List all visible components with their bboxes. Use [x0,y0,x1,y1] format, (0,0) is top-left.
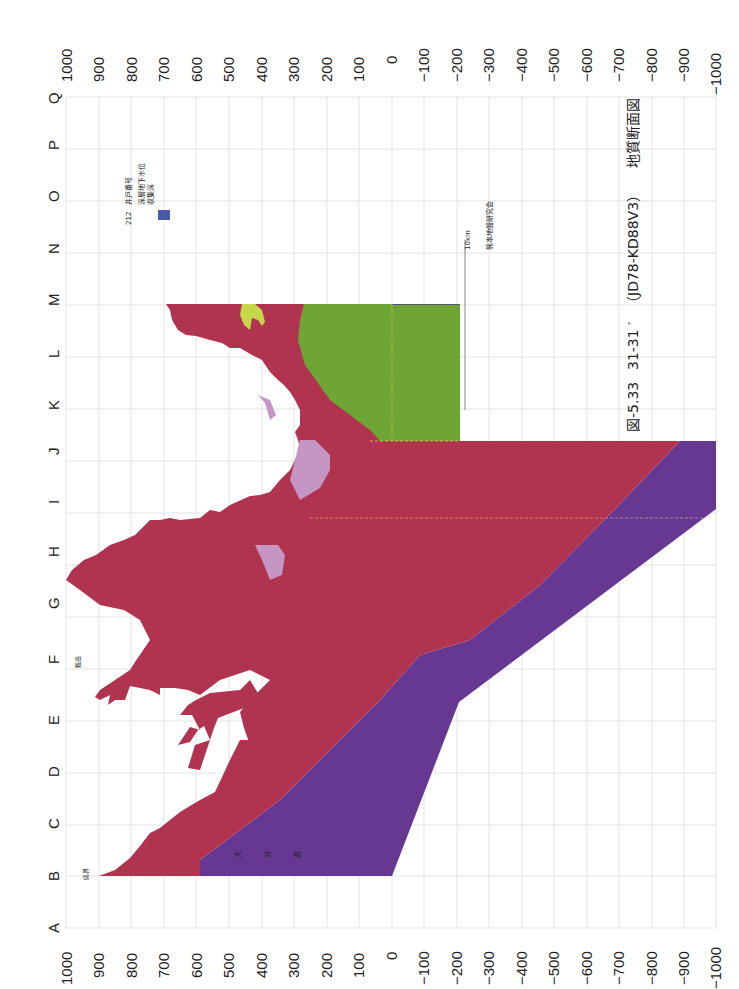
svg-text:500: 500 [220,57,237,82]
svg-text:−600: −600 [578,48,595,82]
svg-text:H: H [45,546,62,557]
svg-text:−500: −500 [545,48,562,82]
organization-label: 熊本地盤研究会 [485,201,494,250]
peak-label: 鞍岳 [74,656,82,668]
svg-text:−100: −100 [415,48,432,82]
svg-text:P: P [45,140,62,150]
svg-text:300: 300 [285,953,302,978]
svg-text:200: 200 [318,57,335,82]
svg-text:−400: −400 [513,951,530,985]
svg-text:−200: −200 [448,951,465,985]
svg-text:地質断面図: 地質断面図 [625,98,641,168]
svg-text:0: 0 [383,56,400,64]
svg-text:31-31 ′: 31-31 ′ [625,322,641,370]
svg-text:−700: −700 [610,951,627,985]
svg-text:−300: −300 [480,48,497,82]
svg-text:収集深: 収集深 [146,184,155,205]
svg-text:600: 600 [188,57,205,82]
svg-text:（JD78-KD88V3）: （JD78-KD88V3） [625,188,641,310]
svg-text:L: L [45,350,62,358]
svg-text:400: 400 [253,57,270,82]
legend-screen-swatch [158,210,170,220]
svg-text:700: 700 [155,953,172,978]
svg-text:B: B [45,871,62,881]
svg-text:図-5.33: 図-5.33 [625,382,641,432]
svg-text:G: G [45,597,62,609]
elevation-axis-top: 1000 900 800 700 600 500 400 300 200 100… [58,48,724,95]
svg-text:−1000: −1000 [707,947,724,989]
svg-text:C: C [45,818,62,829]
svg-text:−800: −800 [643,48,660,82]
svg-text:−500: −500 [545,951,562,985]
svg-text:深層地下水位: 深層地下水位 [137,163,146,205]
svg-text:800: 800 [123,953,140,978]
svg-text:1000: 1000 [58,49,75,82]
lake-deposit-3 [258,395,276,420]
svg-text:700: 700 [155,57,172,82]
svg-text:−200: −200 [448,48,465,82]
svg-text:212: 212 [125,212,133,225]
svg-text:−300: −300 [480,951,497,985]
svg-text:I: I [45,500,62,504]
oita-char-3: 県 [294,851,302,858]
svg-text:−600: −600 [578,951,595,985]
svg-text:−900: −900 [675,951,692,985]
svg-text:−1000: −1000 [707,53,724,95]
svg-text:10km: 10km [464,230,472,250]
svg-text:M: M [45,294,62,307]
cross-section-figure: 10km 井戸番号 212 深層地下水位 収集深 1000 900 800 70… [0,0,739,989]
svg-text:600: 600 [188,953,205,978]
figure-title: 図-5.33 31-31 ′ （JD78-KD88V3） 地質断面図 [625,98,641,432]
svg-text:J: J [45,448,62,456]
svg-text:−900: −900 [675,48,692,82]
oita-char-1: 大 [233,851,242,858]
svg-text:200: 200 [318,953,335,978]
svg-text:E: E [45,715,62,725]
svg-text:0: 0 [383,952,400,960]
svg-text:Q: Q [45,92,62,104]
svg-text:A: A [45,923,62,933]
svg-text:800: 800 [123,57,140,82]
svg-text:D: D [45,766,62,777]
svg-text:井戸番号: 井戸番号 [124,177,133,205]
svg-text:−700: −700 [610,48,627,82]
svg-text:100: 100 [350,953,367,978]
oita-char-2: 分 [263,851,272,858]
svg-text:900: 900 [90,57,107,82]
prefecture-boundary-label: 県界 [82,868,90,880]
svg-text:K: K [45,400,62,410]
svg-text:N: N [45,243,62,254]
svg-text:900: 900 [90,953,107,978]
svg-text:500: 500 [220,953,237,978]
elevation-axis-bottom: 1000 900 800 700 600 500 400 300 200 100… [58,947,724,989]
svg-text:−400: −400 [513,48,530,82]
svg-text:−100: −100 [415,951,432,985]
svg-text:−800: −800 [643,951,660,985]
svg-text:100: 100 [350,57,367,82]
svg-text:300: 300 [285,57,302,82]
svg-text:1000: 1000 [58,952,75,985]
svg-text:F: F [45,655,62,664]
distance-columns: A B C D E F G H I J K L M N O P Q [45,92,62,933]
svg-text:O: O [45,190,62,202]
svg-text:400: 400 [253,953,270,978]
